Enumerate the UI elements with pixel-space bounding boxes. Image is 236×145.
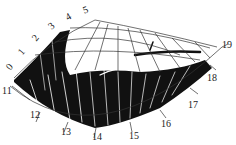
outer-label-12: 12 (30, 110, 40, 120)
outer-label-14: 14 (92, 132, 102, 142)
outer-label-13: 13 (61, 127, 71, 137)
polar-diagram: 0 1 2 3 4 5 11 12 13 14 15 16 17 18 19 (0, 0, 236, 145)
outer-label-16: 16 (161, 119, 171, 129)
outer-label-15: 15 (129, 131, 139, 141)
outer-label-19: 19 (222, 40, 232, 50)
outer-label-17: 17 (188, 100, 198, 110)
outer-label-11: 11 (2, 86, 12, 96)
outer-label-18: 18 (207, 73, 217, 83)
diagram-graphic (0, 0, 236, 145)
